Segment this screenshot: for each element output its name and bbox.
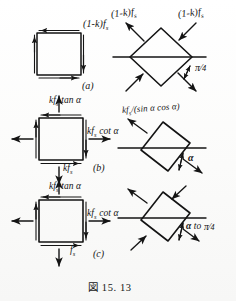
- panel-c-angle-label: α to π⁄4: [186, 221, 215, 232]
- panel-c-left-square-shear-lines: [36, 197, 86, 246]
- figure-container: (1-k)fs (1-k)fs (1-k)fs π⁄4 (a) kfs tan …: [0, 0, 236, 301]
- panel-c-left-shear-arrows: [36, 197, 86, 246]
- panel-b-angle-label: α: [188, 152, 194, 163]
- panel-tag-b: (b): [93, 162, 105, 173]
- panel-tag-a: (a): [82, 80, 94, 91]
- panel-b-right-label: kfs cot α: [87, 126, 119, 138]
- panel-a-compression-label: (1-k)fs: [177, 6, 204, 22]
- panel-c-angle-alpha: α: [186, 221, 191, 231]
- panel-c-right-label: kfs cot α: [87, 208, 119, 220]
- panel-c-top-label: kfs tan α: [49, 181, 81, 193]
- panel-a-left-label: (1-k)fs: [83, 18, 109, 31]
- panel-c-left-square: [39, 200, 83, 242]
- panel-a-left-square: [37, 33, 81, 75]
- panel-c-angle-denominator: 4: [210, 223, 214, 232]
- panel-a-left-square-shear-lines: [35, 31, 84, 79]
- panel-b-left-square-shear-lines: [36, 115, 86, 164]
- panel-a-angle-label: π⁄4: [195, 61, 206, 73]
- figure-caption: 図 15. 13: [88, 279, 132, 294]
- panel-b-left-square: [39, 118, 83, 160]
- panel-a-angle-denominator: 4: [202, 63, 206, 73]
- panel-a-tension-label: (1-k)fs: [110, 6, 137, 22]
- panel-c-bottom-label: fs: [70, 245, 75, 257]
- panel-a-left-shear-arrows: [35, 31, 84, 79]
- panel-b-rotated-square: [141, 122, 190, 171]
- panel-c-angle-connector: to: [194, 221, 202, 231]
- panel-b-bottom-label: kfs: [63, 163, 73, 175]
- panel-a-angle-indicator: [184, 66, 190, 79]
- figure-line-art: [0, 0, 236, 301]
- panel-b-left-shear-arrows: [36, 115, 86, 164]
- panel-c-rotated-square: [141, 192, 190, 241]
- panel-tag-c: (c): [93, 248, 104, 259]
- panel-b-diagonal-arrows: [128, 119, 202, 173]
- panel-b-top-label: kfs tan α: [49, 95, 81, 107]
